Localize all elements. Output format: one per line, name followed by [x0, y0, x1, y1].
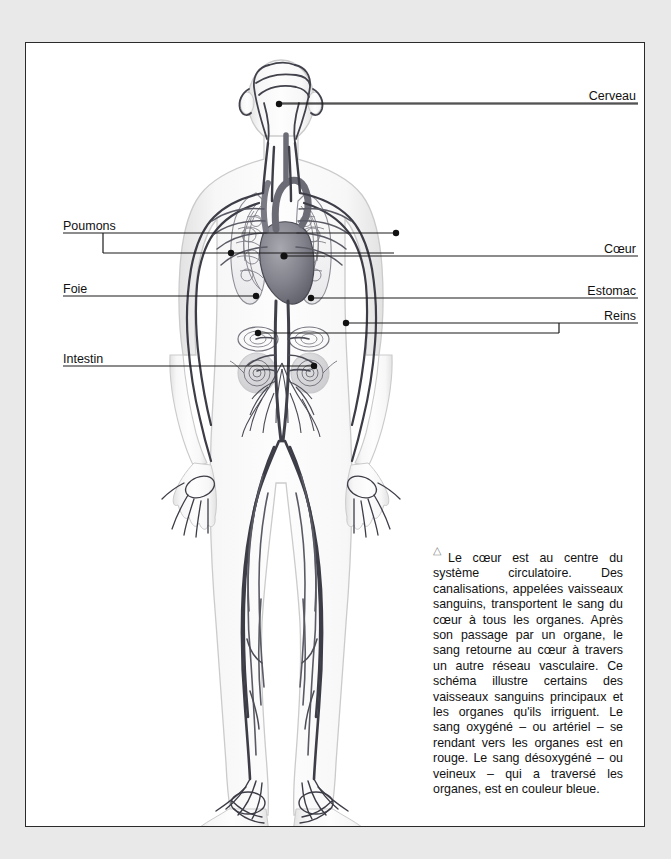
label-estomac: Estomac	[587, 284, 636, 298]
label-poumons-text: Poumons	[63, 219, 116, 233]
label-foie-text: Foie	[63, 282, 87, 296]
label-intestin-text: Intestin	[63, 352, 103, 366]
label-poumons: Poumons	[63, 219, 116, 233]
label-cerveau: Cerveau	[589, 89, 636, 103]
label-estomac-text: Estomac	[587, 284, 636, 298]
human-circulatory-figure	[116, 43, 446, 827]
illustration-plate: Poumons Foie Intestin Cerveau Cœur Estom…	[25, 42, 645, 827]
label-foie: Foie	[63, 282, 87, 296]
triangle-marker-icon	[433, 554, 443, 562]
page-root: Poumons Foie Intestin Cerveau Cœur Estom…	[0, 0, 671, 859]
label-cerveau-text: Cerveau	[589, 89, 636, 103]
body-silhouette	[170, 60, 392, 827]
label-reins-text: Reins	[604, 309, 636, 323]
figure-caption-text: Le cœur est au centre du système circula…	[433, 551, 623, 796]
label-coeur: Cœur	[604, 242, 636, 256]
label-intestin: Intestin	[63, 352, 103, 366]
figure-caption: Le cœur est au centre du système circula…	[433, 551, 623, 798]
label-reins: Reins	[604, 309, 636, 323]
label-coeur-text: Cœur	[604, 242, 636, 256]
